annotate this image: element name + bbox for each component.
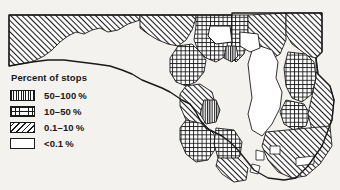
legend-swatch-cross-hatch [10, 106, 35, 117]
legend-label-50-100: 50–100 % [44, 90, 87, 101]
legend-label-10-50: 10–50 % [44, 106, 81, 117]
legend-swatch-vertical-lines [10, 90, 35, 101]
legend-item-50-100: 50–100 % [10, 88, 130, 103]
region-western-panhandle [9, 15, 140, 66]
legend-item-0point1-10: 0.1–10 % [10, 120, 130, 135]
region-southern-maryland [180, 120, 242, 164]
legend-label-under-0point1: <0.1 % [44, 138, 74, 149]
legend-swatch-blank [10, 138, 35, 149]
legend-item-10-50: 10–50 % [10, 104, 130, 119]
maryland-choropleth-figure: Percent of stops 50–100 % 10–50 % 0.1–10… [0, 0, 340, 190]
region-north-central-upper [140, 15, 196, 46]
legend-title: Percent of stops [11, 72, 130, 83]
legend-item-under-0point1: <0.1 % [10, 136, 130, 151]
legend-label-0point1-10: 0.1–10 % [44, 122, 84, 133]
legend-swatch-diagonal-lines [10, 122, 35, 133]
region-southern-tip [216, 158, 248, 182]
map-legend: Percent of stops 50–100 % 10–50 % 0.1–10… [10, 72, 130, 152]
region-upper-eastern-shore [286, 13, 322, 58]
